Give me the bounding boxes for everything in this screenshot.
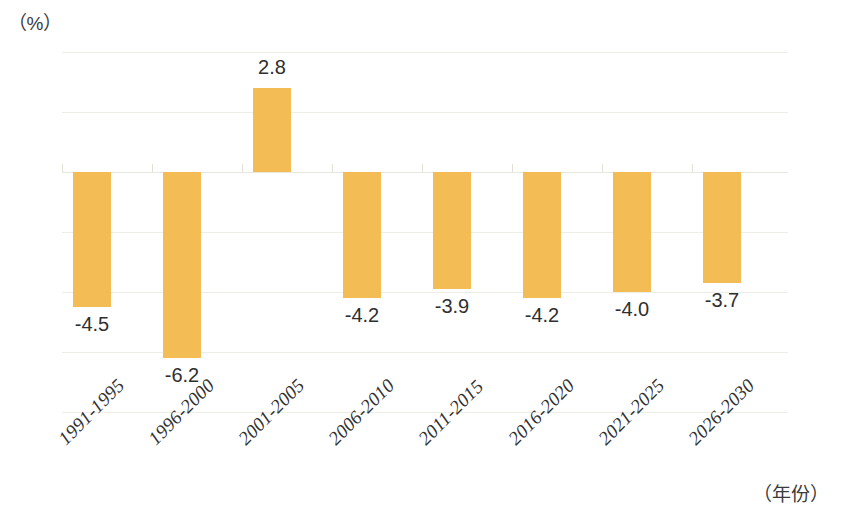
y-axis-unit-label: （%） (8, 8, 61, 35)
bar-value-label: -4.5 (75, 313, 109, 336)
x-axis-tick (602, 164, 603, 172)
bar[interactable] (703, 172, 741, 283)
bar[interactable] (613, 172, 651, 292)
bar-value-label: -3.9 (435, 295, 469, 318)
x-axis-tick (332, 164, 333, 172)
bar[interactable] (73, 172, 111, 307)
gridline (62, 52, 788, 53)
x-axis-unit-label: （年份） (753, 479, 829, 506)
bar[interactable] (523, 172, 561, 298)
chart-canvas: （%） 420-2-4-6-8-4.5-6.22.8-4.2-3.9-4.2-4… (0, 0, 843, 524)
x-axis-tick (512, 164, 513, 172)
x-axis-tick (62, 164, 63, 172)
x-axis-tick (242, 164, 243, 172)
bar-value-label: -4.0 (615, 298, 649, 321)
bar-value-label: -4.2 (525, 304, 559, 327)
bar-value-label: -4.2 (345, 304, 379, 327)
gridline (62, 112, 788, 113)
bar[interactable] (253, 88, 291, 172)
bar-value-label: -3.7 (705, 289, 739, 312)
bar-value-label: 2.8 (258, 56, 286, 79)
plot-area: 420-2-4-6-8-4.5-6.22.8-4.2-3.9-4.2-4.0-3… (62, 52, 788, 412)
x-axis-tick (152, 164, 153, 172)
x-axis-tick (422, 164, 423, 172)
x-axis-tick (692, 164, 693, 172)
bar[interactable] (433, 172, 471, 289)
bar[interactable] (343, 172, 381, 298)
bar[interactable] (163, 172, 201, 358)
